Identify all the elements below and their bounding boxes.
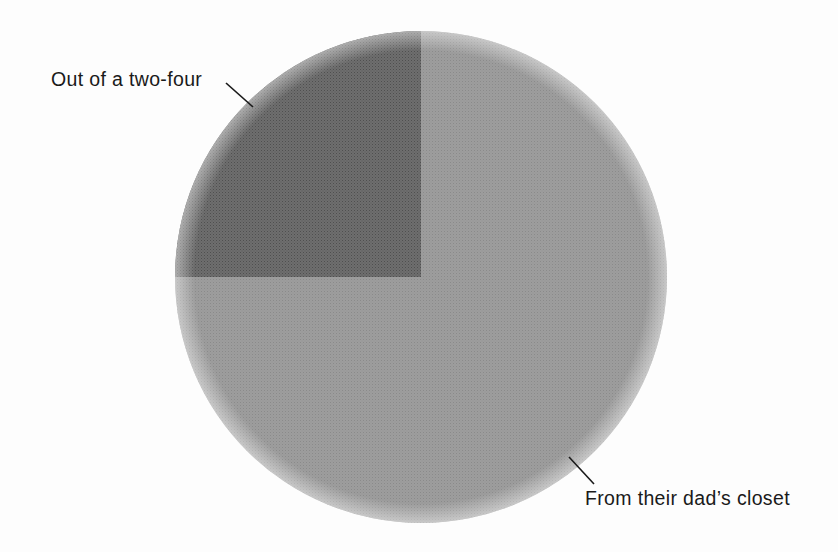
pie-chart-figure: Out of a two-four From their dad’s close… [0,0,838,552]
leader-line-out-of-a-two-four [226,83,253,107]
pie-slice-label-from-their-dads-closet: From their dad’s closet [585,489,790,509]
pie-slice-label-out-of-a-two-four: Out of a two-four [51,70,202,90]
pie-edge-softening [175,31,667,523]
